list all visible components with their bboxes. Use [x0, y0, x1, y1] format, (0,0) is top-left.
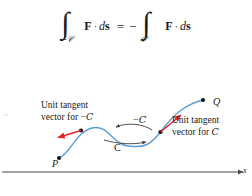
integral-right-subscript: 𝒞 [141, 36, 147, 44]
label-unit-tangent-neg-line2: vector for − [41, 112, 86, 122]
label-unit-tangent-vector-positive-c: Unit tangent vector for C [172, 115, 219, 138]
label-unit-tangent-pos-line2: vector for [172, 127, 209, 137]
integrand-right: F·ds [165, 20, 190, 32]
integral-sign-icon: ∫ [61, 8, 69, 38]
label-unit-tangent-vector-negative-c: Unit tangent vector for −C [41, 100, 93, 123]
label-axis-x: x [243, 165, 247, 176]
tangent-arrow-negative-c [58, 131, 81, 138]
vector-field-F-left: F [84, 19, 91, 33]
curve-diagram: Unit tangent vector for −C Unit tangent … [0, 88, 252, 196]
dot-product-operator-right: · [175, 21, 178, 32]
arc-length-vector-s-left: s [105, 19, 110, 33]
label-point-q: Q [213, 96, 220, 107]
label-unit-tangent-pos-line1: Unit tangent [172, 115, 219, 125]
label-curve-positive-c: C [114, 142, 121, 153]
direction-arrow-negative-c [116, 124, 152, 130]
integral-sign-icon-right: ∫ [142, 8, 150, 38]
direction-arrow-positive-c [104, 140, 146, 144]
dot-product-operator-left: · [94, 21, 97, 32]
label-curve-negative-c: −C [133, 114, 146, 125]
label-unit-tangent-neg-line1: Unit tangent [41, 100, 88, 110]
integral-left: ∫ −𝒞 [59, 10, 81, 42]
integral-left-subscript: −𝒞 [60, 36, 73, 44]
equation-display: ∫ −𝒞 F·ds = − ∫ 𝒞 F·ds [0, 10, 252, 44]
label-unit-tangent-neg-curve-symbol: C [86, 111, 93, 122]
figure-root: ∫ −𝒞 F·ds = − ∫ 𝒞 F·ds [0, 0, 252, 196]
label-point-p: P [52, 158, 58, 169]
equation-inline: ∫ −𝒞 F·ds = − ∫ 𝒞 F·ds [59, 10, 192, 42]
point-marker-q [201, 98, 205, 102]
integrand-left: F·ds [84, 20, 109, 32]
integral-right: ∫ 𝒞 [140, 10, 162, 42]
vector-field-F-right: F [165, 19, 172, 33]
arc-length-vector-s-right: s [186, 19, 191, 33]
label-curve-neg-symbol: C [139, 114, 147, 125]
negative-sign: − [129, 20, 136, 33]
equals-sign: = [117, 20, 124, 33]
label-unit-tangent-pos-curve-symbol: C [212, 126, 219, 137]
